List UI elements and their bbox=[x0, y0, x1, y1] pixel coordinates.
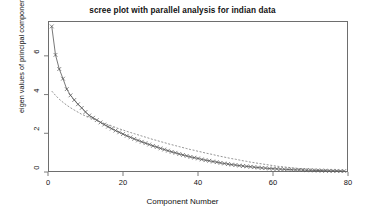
series-markers-0 bbox=[50, 25, 346, 173]
plot-area bbox=[48, 21, 348, 172]
x-tick-label: 60 bbox=[263, 178, 283, 187]
data-point-marker bbox=[136, 139, 140, 143]
data-point-marker bbox=[147, 143, 151, 147]
data-point-marker bbox=[121, 132, 125, 136]
plot-frame bbox=[49, 22, 348, 172]
data-point-marker bbox=[106, 125, 110, 129]
data-point-marker bbox=[129, 135, 133, 139]
data-point-marker bbox=[65, 87, 69, 91]
x-axis-label: Component Number bbox=[0, 197, 365, 206]
x-tick-label: 0 bbox=[38, 178, 58, 187]
data-point-marker bbox=[117, 130, 121, 134]
x-tick-label: 20 bbox=[113, 178, 133, 187]
chart-title: scree plot with parallel analysis for in… bbox=[0, 6, 365, 15]
data-point-marker bbox=[84, 110, 88, 114]
y-tick-label: 2 bbox=[32, 127, 41, 139]
data-point-marker bbox=[125, 134, 129, 138]
data-point-marker bbox=[140, 140, 144, 144]
data-point-marker bbox=[114, 129, 118, 133]
data-point-marker bbox=[132, 137, 136, 141]
data-point-marker bbox=[76, 102, 80, 106]
x-tick-label: 40 bbox=[188, 178, 208, 187]
y-axis-label-wrapper: eigen values of principal components bbox=[17, 0, 29, 123]
plot-svg bbox=[48, 21, 348, 172]
data-point-marker bbox=[69, 93, 73, 97]
x-tick-label: 80 bbox=[338, 178, 358, 187]
data-point-marker bbox=[72, 98, 76, 102]
data-point-marker bbox=[80, 106, 84, 110]
scree-plot-figure: scree plot with parallel analysis for in… bbox=[0, 0, 365, 218]
data-point-marker bbox=[61, 77, 65, 81]
y-tick-label: 0 bbox=[32, 166, 41, 178]
y-axis-label: eigen values of principal components bbox=[17, 0, 26, 123]
series-layer bbox=[50, 25, 346, 173]
data-point-marker bbox=[144, 141, 148, 145]
y-tick-label: 6 bbox=[32, 49, 41, 61]
y-tick-label: 4 bbox=[32, 88, 41, 100]
data-point-marker bbox=[110, 127, 114, 131]
series-line-0 bbox=[52, 26, 345, 171]
